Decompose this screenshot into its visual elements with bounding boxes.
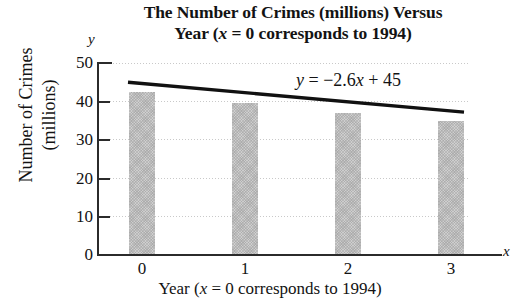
x-axis-label: Year (x = 0 corresponds to 1994) bbox=[60, 279, 480, 299]
gridline-10 bbox=[110, 216, 470, 217]
trend-line-equation: y = −2.6x + 45 bbox=[296, 70, 401, 91]
x-tick-label-2: 2 bbox=[328, 259, 368, 279]
equation-plus: + bbox=[368, 70, 378, 90]
gridline-40 bbox=[110, 101, 470, 102]
y-tick-label-20: 20 bbox=[55, 170, 93, 187]
equation-slope: −2.6 bbox=[323, 70, 356, 90]
y-axis-line bbox=[97, 62, 99, 256]
bar-year-3 bbox=[438, 121, 464, 255]
y-tick-mark-10 bbox=[99, 216, 110, 218]
chart-title-line-2: Year (x = 0 corresponds to 1994) bbox=[78, 23, 508, 44]
y-tick-mark-50 bbox=[99, 62, 110, 64]
chart-title-variable-x: x bbox=[219, 23, 228, 43]
bar-year-0 bbox=[129, 92, 155, 255]
gridline-20 bbox=[110, 178, 470, 179]
y-tick-label-10: 10 bbox=[55, 208, 93, 225]
chart-title-line-2-pre: Year ( bbox=[174, 23, 218, 43]
x-axis-line bbox=[97, 254, 502, 256]
chart-title: The Number of Crimes (millions) Versus Y… bbox=[78, 2, 508, 44]
y-tick-label-0: 0 bbox=[55, 246, 93, 263]
equation-equals: = bbox=[309, 70, 319, 90]
x-tick-label-0: 0 bbox=[122, 259, 162, 279]
x-axis-letter: x bbox=[503, 243, 510, 260]
chart-title-line-2-post: = 0 corresponds to 1994) bbox=[227, 23, 412, 43]
y-tick-mark-20 bbox=[99, 178, 110, 180]
x-axis-label-post: = 0 corresponds to 1994) bbox=[207, 279, 381, 298]
gridline-50 bbox=[110, 63, 470, 64]
y-tick-mark-40 bbox=[99, 101, 110, 103]
equation-x: x bbox=[356, 70, 364, 90]
y-tick-label-40: 40 bbox=[55, 93, 93, 110]
bar-year-1 bbox=[232, 103, 258, 255]
y-tick-label-50: 50 bbox=[55, 54, 93, 71]
y-axis-letter: y bbox=[88, 31, 95, 48]
gridline-30 bbox=[110, 139, 470, 140]
x-tick-label-3: 3 bbox=[431, 259, 471, 279]
equation-y: y bbox=[296, 70, 304, 90]
y-axis-label-line-1: Number of Crimes bbox=[15, 15, 38, 215]
crime-bar-chart: The Number of Crimes (millions) Versus Y… bbox=[0, 0, 518, 303]
chart-title-line-1: The Number of Crimes (millions) Versus bbox=[78, 2, 508, 23]
y-tick-mark-30 bbox=[99, 139, 110, 141]
bar-year-2 bbox=[335, 113, 361, 255]
x-tick-label-1: 1 bbox=[225, 259, 265, 279]
equation-intercept: 45 bbox=[383, 70, 401, 90]
y-tick-label-30: 30 bbox=[55, 131, 93, 148]
x-axis-label-pre: Year ( bbox=[158, 279, 199, 298]
